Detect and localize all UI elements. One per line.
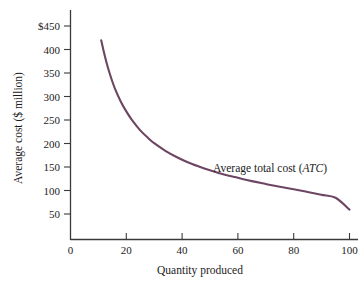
x-tick-label-60: 60	[232, 244, 244, 256]
x-tick-label-40: 40	[177, 244, 189, 256]
y-tick-label-350: 350	[44, 67, 61, 79]
chart-figure: $450 400 350 300 250 200 150 100 50 0 20…	[0, 0, 364, 288]
y-tick-label-450: $450	[38, 20, 61, 32]
y-axis-title: Average cost ($ million)	[12, 72, 25, 184]
average-total-cost-chart: $450 400 350 300 250 200 150 100 50 0 20…	[0, 0, 364, 288]
y-tick-label-400: 400	[44, 44, 61, 56]
x-axis-title: Quantity produced	[157, 264, 243, 277]
x-tick-label-20: 20	[121, 244, 133, 256]
curve-annotation-label: Average total cost (ATC)	[213, 162, 327, 175]
x-tick-label-0: 0	[68, 244, 74, 256]
y-tick-label-150: 150	[44, 161, 61, 173]
y-tick-label-100: 100	[44, 185, 61, 197]
y-tick-label-300: 300	[44, 91, 61, 103]
y-tick-label-50: 50	[49, 208, 61, 220]
y-tick-label-200: 200	[44, 138, 61, 150]
y-tick-label-250: 250	[44, 114, 61, 126]
annotation-close-paren: )	[323, 162, 327, 175]
x-tick-label-80: 80	[288, 244, 300, 256]
x-tick-label-100: 100	[341, 244, 358, 256]
annotation-italic-text: ATC	[302, 162, 324, 174]
annotation-plain-text: Average total cost (	[213, 162, 303, 175]
